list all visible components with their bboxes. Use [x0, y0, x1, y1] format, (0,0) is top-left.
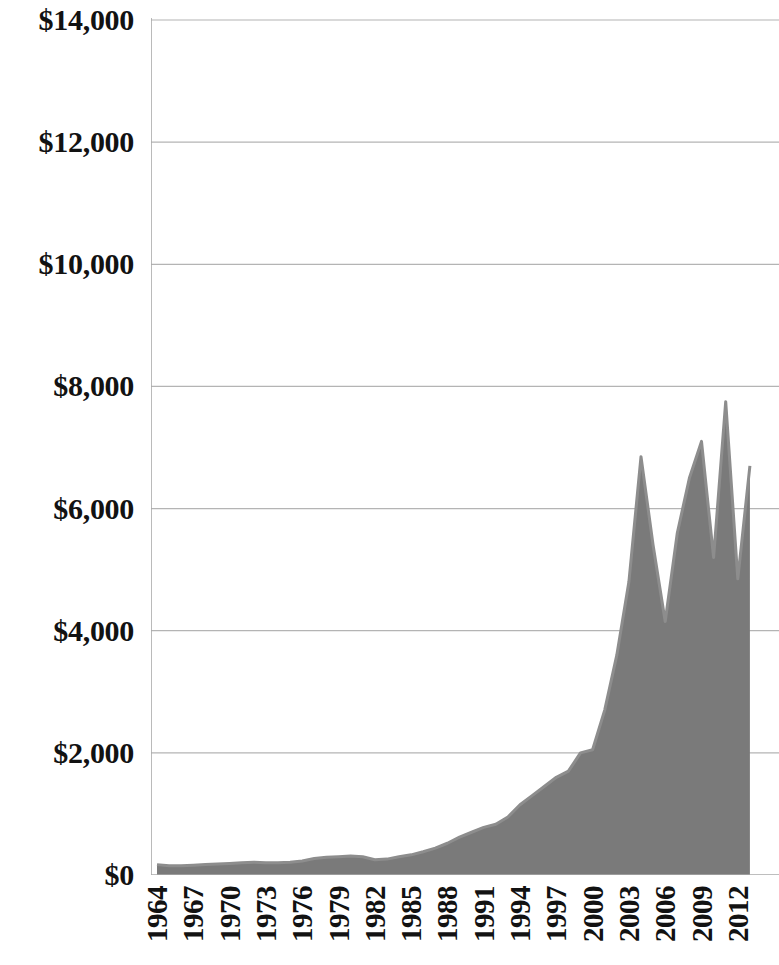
- x-tick-label: 2000: [579, 886, 608, 942]
- x-tick-label: 2012: [724, 886, 753, 942]
- x-axis-labels: 1964196719701973197619791982198519881991…: [0, 886, 779, 965]
- area-fill: [157, 402, 750, 875]
- x-tick-label: 1985: [397, 886, 426, 942]
- x-tick-label: 1979: [325, 886, 354, 942]
- y-tick-label: $4,000: [53, 616, 134, 646]
- x-tick-label: 1967: [179, 886, 208, 942]
- plot-area: [151, 18, 779, 875]
- x-tick-label: 2009: [688, 886, 717, 942]
- y-tick-label: $10,000: [39, 249, 134, 279]
- x-tick-label: 1991: [470, 886, 499, 942]
- y-tick-label: $6,000: [53, 494, 134, 524]
- y-tick-label: $2,000: [53, 738, 134, 768]
- y-tick-label: $12,000: [39, 127, 134, 157]
- x-tick-label: 1973: [252, 886, 281, 942]
- x-tick-label: 2003: [615, 886, 644, 942]
- x-tick-label: 1994: [506, 886, 535, 942]
- plot-svg: [151, 18, 779, 875]
- x-tick-label: 1997: [542, 886, 571, 942]
- y-tick-label: $8,000: [53, 371, 134, 401]
- x-tick-label: 1976: [288, 886, 317, 942]
- x-tick-label: 1982: [361, 886, 390, 942]
- y-tick-label: $14,000: [39, 5, 134, 35]
- x-tick-label: 1964: [143, 886, 172, 942]
- area-chart: $14,000$12,000$10,000$8,000$6,000$4,000$…: [0, 0, 779, 965]
- y-axis-labels: $14,000$12,000$10,000$8,000$6,000$4,000$…: [0, 0, 134, 890]
- x-tick-label: 1988: [433, 886, 462, 942]
- x-tick-label: 1970: [216, 886, 245, 942]
- x-tick-label: 2006: [651, 886, 680, 942]
